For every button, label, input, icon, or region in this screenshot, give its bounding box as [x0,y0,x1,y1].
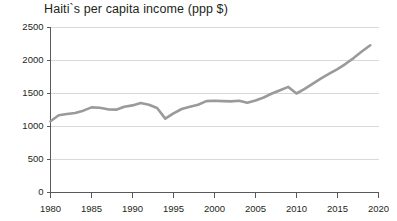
x-tick-label-1980: 1980 [40,203,61,214]
y-axis-labels-group: 05001000150020002500 [22,21,43,197]
y-tick-label-500: 500 [28,153,44,164]
y-tick-label-1500: 1500 [22,87,43,98]
gridlines-group [51,28,379,160]
y-tick-label-2000: 2000 [22,54,43,65]
income-line-series [51,45,371,121]
x-tick-label-1995: 1995 [163,203,184,214]
y-tick-label-2500: 2500 [22,21,43,32]
x-tick-label-2005: 2005 [245,203,266,214]
x-tick-label-2020: 2020 [368,203,389,214]
x-tick-label-2010: 2010 [286,203,307,214]
y-tick-label-0: 0 [38,186,43,197]
x-tick-label-1990: 1990 [122,203,143,214]
x-axis-labels-group: 198019851990199520002005201020152020 [40,203,389,214]
chart-figure: Haiti`s per capita income (ppp $) 050010… [0,0,397,221]
x-tick-label-2000: 2000 [204,203,225,214]
x-tick-label-1985: 1985 [81,203,102,214]
line-chart-plot: 05001000150020002500 1980198519901995200… [0,0,397,221]
x-tick-label-2015: 2015 [327,203,348,214]
y-tick-label-1000: 1000 [22,120,43,131]
